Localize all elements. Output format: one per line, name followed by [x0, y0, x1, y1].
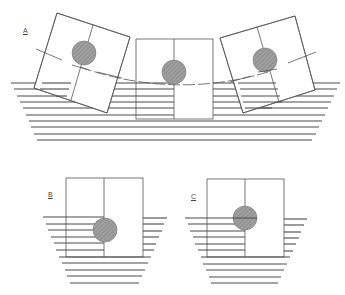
diagram-svg — [0, 0, 345, 295]
buoyancy-circle-a-right — [253, 48, 277, 72]
block-a-left — [34, 13, 130, 113]
panel-label-b: B — [48, 191, 53, 198]
buoyancy-circle-b — [93, 218, 117, 242]
buoyancy-circle-a-center — [162, 60, 186, 84]
block-a-right — [220, 16, 316, 113]
panel-label-c: C — [191, 193, 196, 200]
buoyancy-circle-a-left — [72, 41, 96, 65]
panel-a — [11, 13, 340, 140]
block-a-center — [136, 39, 213, 119]
panel-b — [43, 178, 167, 283]
panel-c — [185, 179, 307, 283]
panel-label-a: A — [23, 27, 28, 34]
diagram-stage: A B C — [0, 0, 345, 295]
